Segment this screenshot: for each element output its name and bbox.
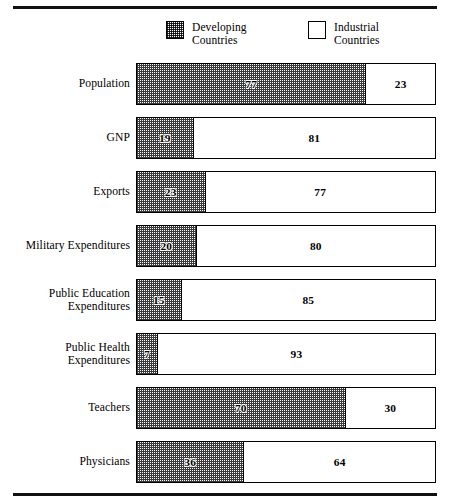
bar-segment-value: 7 bbox=[144, 349, 150, 360]
bar-category-label: Exports bbox=[0, 171, 130, 213]
bar-segment-developing: 36 bbox=[137, 442, 244, 482]
bar-category-label: Public EducationExpenditures bbox=[0, 279, 130, 321]
bar-segment-value: 70 bbox=[235, 402, 247, 414]
bar-segment-value: 15 bbox=[153, 294, 165, 306]
bar-category-label: Teachers bbox=[0, 387, 130, 429]
bar-category-label-line: Exports bbox=[93, 185, 130, 198]
bar-segment-developing: 7 bbox=[137, 334, 158, 374]
bar-segment-value: 36 bbox=[184, 456, 196, 468]
bar-segment-industrial: 81 bbox=[194, 118, 435, 158]
bar-category-label-line: Military Expenditures bbox=[26, 239, 130, 252]
bar-row: GNP1981 bbox=[0, 117, 454, 159]
bar-segment-developing: 20 bbox=[137, 226, 197, 266]
bar-track: 793 bbox=[136, 333, 436, 375]
bar-segment-value: 23 bbox=[165, 186, 177, 198]
bar-segment-value: 20 bbox=[160, 240, 172, 252]
bar-category-label: Public HealthExpenditures bbox=[0, 333, 130, 375]
bar-segment-value: 19 bbox=[159, 132, 171, 144]
bar-segment-value: 80 bbox=[310, 240, 322, 252]
bar-category-label-line: GNP bbox=[107, 131, 131, 144]
bar-track: 1981 bbox=[136, 117, 436, 159]
bar-category-label-line: Public Education bbox=[49, 287, 130, 300]
bar-row: Military Expenditures2080 bbox=[0, 225, 454, 267]
bar-segment-value: 77 bbox=[314, 186, 326, 198]
bar-segment-developing: 23 bbox=[137, 172, 206, 212]
bar-category-label-line: Expenditures bbox=[68, 300, 130, 313]
bar-category-label: GNP bbox=[0, 117, 130, 159]
bottom-rule bbox=[13, 493, 437, 496]
bar-category-label: Population bbox=[0, 63, 130, 105]
bar-segment-developing: 77 bbox=[137, 64, 366, 104]
bar-row: Teachers7030 bbox=[0, 387, 454, 429]
bar-segment-industrial: 80 bbox=[197, 226, 435, 266]
bar-segment-industrial: 93 bbox=[158, 334, 435, 374]
bar-track: 7030 bbox=[136, 387, 436, 429]
bar-track: 1585 bbox=[136, 279, 436, 321]
bar-segment-value: 23 bbox=[395, 78, 407, 90]
bar-category-label: Physicians bbox=[0, 441, 130, 483]
bar-chart-plot-area: Population7723GNP1981Exports2377Military… bbox=[0, 0, 454, 503]
bar-segment-industrial: 64 bbox=[244, 442, 435, 482]
bar-segment-industrial: 23 bbox=[366, 64, 435, 104]
bar-segment-developing: 19 bbox=[137, 118, 194, 158]
bar-segment-developing: 70 bbox=[137, 388, 346, 428]
bar-segment-industrial: 77 bbox=[206, 172, 435, 212]
bar-track: 2377 bbox=[136, 171, 436, 213]
bar-category-label-line: Teachers bbox=[88, 401, 130, 414]
bar-segment-value: 93 bbox=[291, 348, 303, 360]
bar-category-label-line: Public Health bbox=[65, 341, 130, 354]
bar-segment-industrial: 85 bbox=[182, 280, 435, 320]
bar-segment-value: 30 bbox=[384, 402, 396, 414]
bar-row: Public EducationExpenditures1585 bbox=[0, 279, 454, 321]
bar-segment-industrial: 30 bbox=[346, 388, 435, 428]
chart-figure: Developing Countries Industrial Countrie… bbox=[0, 0, 454, 503]
bar-track: 3664 bbox=[136, 441, 436, 483]
bar-row: Physicians3664 bbox=[0, 441, 454, 483]
bar-track: 7723 bbox=[136, 63, 436, 105]
bar-row: Public HealthExpenditures793 bbox=[0, 333, 454, 375]
bar-segment-value: 81 bbox=[308, 132, 320, 144]
bar-category-label-line: Expenditures bbox=[68, 354, 130, 367]
bar-track: 2080 bbox=[136, 225, 436, 267]
bar-category-label-line: Physicians bbox=[79, 455, 130, 468]
bar-segment-developing: 15 bbox=[137, 280, 182, 320]
bar-row: Population7723 bbox=[0, 63, 454, 105]
bar-category-label: Military Expenditures bbox=[0, 225, 130, 267]
bar-segment-value: 77 bbox=[245, 78, 257, 90]
bar-row: Exports2377 bbox=[0, 171, 454, 213]
bar-segment-value: 64 bbox=[334, 456, 346, 468]
bar-segment-value: 85 bbox=[302, 294, 314, 306]
bar-category-label-line: Population bbox=[79, 77, 130, 90]
